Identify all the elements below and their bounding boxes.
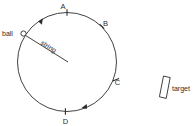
target-label: target: [172, 85, 190, 93]
string-label: string: [39, 39, 58, 55]
ball-label: ball: [2, 30, 13, 37]
point-label-c: C: [115, 78, 121, 87]
point-label-b: B: [103, 19, 108, 28]
circular-path: [18, 13, 117, 112]
physics-diagram: A B C D ball string target: [0, 0, 194, 126]
diagram-canvas: A B C D ball string target: [0, 0, 194, 126]
target-shape: [159, 76, 170, 98]
point-label-a: A: [60, 2, 65, 11]
point-label-d: D: [63, 117, 69, 126]
ball-marker: [21, 31, 26, 36]
